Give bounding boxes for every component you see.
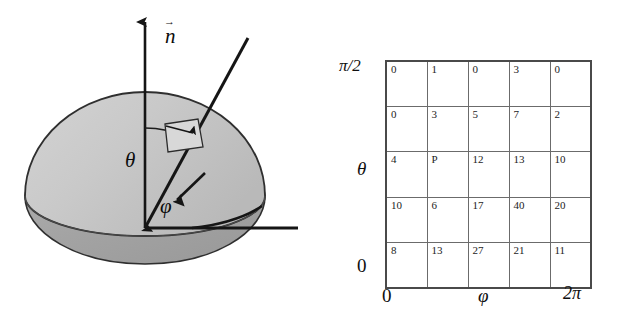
grid-cell[interactable]: 27 (468, 242, 509, 288)
x-axis-max-label: 2π (563, 283, 581, 304)
grid-cell[interactable]: 8 (386, 242, 427, 288)
cell-value: 3 (432, 108, 438, 121)
cell-value-p: P (432, 153, 438, 166)
grid-table-panel: π/2 θ 0 0 1 0 3 0 0 3 5 7 2 (320, 0, 618, 318)
phi-label: φ (160, 194, 172, 219)
cell-value: 11 (555, 244, 566, 257)
cell-value: 0 (473, 63, 479, 76)
theta-phi-grid-table: 0 1 0 3 0 0 3 5 7 2 4 P 12 13 (385, 60, 592, 289)
grid-cell[interactable]: 0 (468, 61, 509, 107)
surface-patch (165, 119, 203, 152)
grid-cell[interactable]: 20 (550, 197, 591, 242)
x-axis-title: φ (478, 285, 489, 307)
grid-cell[interactable]: 4 (386, 152, 427, 197)
y-axis-min-label: 0 (357, 255, 367, 277)
cell-value: 2 (555, 108, 561, 121)
cell-value: 0 (555, 63, 561, 76)
cell-value: 27 (473, 244, 484, 257)
grid-cell[interactable]: 0 (386, 61, 427, 107)
grid-cell[interactable]: 13 (427, 242, 468, 288)
cell-value: 0 (391, 63, 397, 76)
cell-value: 7 (514, 108, 520, 121)
grid-cell[interactable]: 3 (509, 61, 550, 107)
grid-cell[interactable]: 6 (427, 197, 468, 242)
cell-value: 13 (432, 244, 443, 257)
grid-cell-p[interactable]: P (427, 152, 468, 197)
cell-value: 6 (432, 199, 438, 212)
cell-value: 0 (391, 108, 397, 121)
cell-value: 12 (473, 153, 484, 166)
hemisphere-diagram-panel: →n θ φ (0, 0, 320, 318)
cell-value: 20 (555, 199, 566, 212)
cell-value: 1 (432, 63, 438, 76)
figure-root: →n θ φ π/2 θ 0 0 1 0 3 0 0 3 5 7 (0, 0, 618, 318)
cell-value: 21 (514, 244, 525, 257)
grid-cell[interactable]: 21 (509, 242, 550, 288)
cell-value: 13 (514, 153, 525, 166)
grid-cell[interactable]: 10 (386, 197, 427, 242)
hemisphere-illustration (0, 0, 320, 318)
table-row: 10 6 17 40 20 (386, 197, 591, 242)
cell-value: 17 (473, 199, 484, 212)
grid-cell[interactable]: 2 (550, 107, 591, 152)
grid-cell[interactable]: 0 (550, 61, 591, 107)
cell-value: 10 (391, 199, 402, 212)
table-row: 0 3 5 7 2 (386, 107, 591, 152)
grid-cell[interactable]: 1 (427, 61, 468, 107)
grid-cell[interactable]: 7 (509, 107, 550, 152)
cell-value: 4 (391, 153, 397, 166)
grid-cell[interactable]: 12 (468, 152, 509, 197)
grid-cell[interactable]: 3 (427, 107, 468, 152)
grid-table-body: 0 1 0 3 0 0 3 5 7 2 4 P 12 13 (386, 61, 591, 288)
table-row: 0 1 0 3 0 (386, 61, 591, 107)
grid-cell[interactable]: 17 (468, 197, 509, 242)
grid-cell[interactable]: 40 (509, 197, 550, 242)
normal-vector-label: →n (165, 24, 176, 49)
grid-cell[interactable]: 5 (468, 107, 509, 152)
grid-cell[interactable]: 13 (509, 152, 550, 197)
cell-value: 10 (555, 153, 566, 166)
x-axis-min-label: 0 (382, 285, 392, 307)
theta-label: θ (125, 148, 135, 173)
grid-cell[interactable]: 11 (550, 242, 591, 288)
table-row: 8 13 27 21 11 (386, 242, 591, 288)
cell-value: 40 (514, 199, 525, 212)
grid-cell[interactable]: 0 (386, 107, 427, 152)
y-axis-max-label: π/2 (339, 56, 361, 76)
cell-value: 8 (391, 244, 397, 257)
grid-cell[interactable]: 10 (550, 152, 591, 197)
y-axis-title: θ (357, 158, 366, 180)
vector-overarrow-icon: → (164, 17, 181, 25)
cell-value: 3 (514, 63, 520, 76)
cell-value: 5 (473, 108, 479, 121)
table-row: 4 P 12 13 10 (386, 152, 591, 197)
